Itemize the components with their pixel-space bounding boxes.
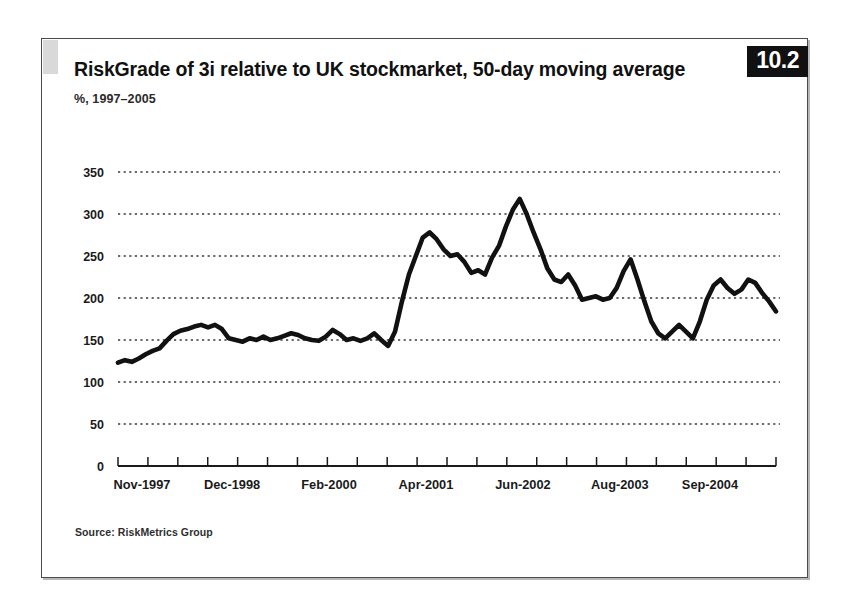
y-axis-tick-label: 250 bbox=[83, 250, 104, 264]
y-axis-tick-label: 150 bbox=[83, 334, 104, 348]
x-axis-tick-label: Apr-2001 bbox=[399, 477, 454, 492]
y-axis-tick-label: 200 bbox=[83, 292, 104, 306]
x-axis-tick-label: Jun-2002 bbox=[495, 477, 550, 492]
data-series-line bbox=[118, 199, 776, 363]
x-axis-tick-label: Nov-1997 bbox=[114, 477, 171, 492]
x-axis-tick-label: Aug-2003 bbox=[591, 477, 649, 492]
y-axis-tick-label: 50 bbox=[90, 418, 104, 432]
y-axis-tick-label: 100 bbox=[83, 376, 104, 390]
x-axis-tick-label: Feb-2000 bbox=[301, 477, 356, 492]
source-note: Source: RiskMetrics Group bbox=[75, 526, 213, 538]
x-axis-tick-label: Sep-2004 bbox=[682, 477, 739, 492]
y-axis-tick-label: 300 bbox=[83, 208, 104, 222]
y-axis-tick-label: 350 bbox=[83, 166, 104, 180]
figure-card: 10.2 RiskGrade of 3i relative to UK stoc… bbox=[41, 38, 808, 578]
chart-svg: 050100150200250300350Nov-1997Dec-1998Feb… bbox=[42, 39, 809, 579]
y-axis-tick-label: 0 bbox=[97, 460, 104, 474]
x-axis-tick-label: Dec-1998 bbox=[204, 477, 260, 492]
plot-area: 050100150200250300350Nov-1997Dec-1998Feb… bbox=[42, 39, 807, 577]
